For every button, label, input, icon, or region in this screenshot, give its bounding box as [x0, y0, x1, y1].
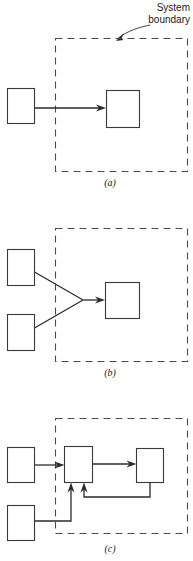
panel-b-internal-box: [106, 283, 140, 319]
panel-b-flow-from-bottom: [35, 300, 84, 328]
system-boundary-diagram: System boundary (a): [0, 0, 193, 561]
panel-b: (b): [8, 229, 188, 380]
annotation-line-1: System: [157, 2, 190, 13]
figure-container: System boundary (a): [0, 0, 193, 561]
panel-c-caption: (c): [104, 543, 116, 555]
panel-a-caption: (a): [104, 177, 116, 189]
panel-c-internal-box-right: [137, 449, 164, 483]
panel-c-external-box-bottom: [8, 506, 35, 541]
annotation-arrowhead-icon: [116, 33, 124, 41]
panel-c-external-box-top: [8, 448, 35, 483]
panel-c-internal-box-middle: [65, 447, 93, 483]
panel-b-external-box-bottom: [8, 315, 35, 351]
panel-a: (a): [8, 39, 188, 190]
annotation-line-2: boundary: [148, 14, 190, 25]
panel-c-flow-bottom-external: [35, 489, 72, 521]
panel-c-feedback-loop: [84, 483, 150, 498]
panel-a-external-box: [8, 89, 35, 124]
panel-b-external-box-top: [8, 250, 35, 286]
panel-b-caption: (b): [104, 367, 116, 379]
panel-c: (c): [8, 419, 188, 556]
panel-a-internal-box: [107, 91, 140, 128]
panel-b-flow-from-top: [35, 272, 84, 300]
